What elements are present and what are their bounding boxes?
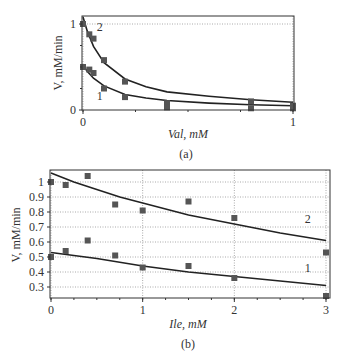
data-point-series-2 <box>101 57 107 63</box>
chart-panel-a: 0101 21 V, mM/min Val, mM (a) <box>51 16 296 161</box>
data-point-series-1 <box>231 275 237 281</box>
fit-curve-series-2 <box>51 173 326 241</box>
y-tick-label: 0.7 <box>29 220 44 234</box>
chart-b-series-labels: 21 <box>305 212 311 276</box>
chart-a-x-axis-label: Val, mM <box>168 127 209 141</box>
x-tick-label: 0 <box>48 303 54 317</box>
data-point-series-1 <box>186 263 192 269</box>
figure: 0101 21 V, mM/min Val, mM (a) 01230.30.4… <box>0 0 341 361</box>
chart-a-frame <box>82 16 294 110</box>
data-point-series-1 <box>122 94 128 100</box>
y-tick-label: 0.8 <box>29 205 44 219</box>
data-point-series-2 <box>186 199 192 205</box>
series-label-1: 1 <box>305 261 311 275</box>
y-tick-label: 1 <box>70 17 76 31</box>
chart-panel-b: 01230.30.40.50.60.70.80.91 21 V, mM/min … <box>9 170 330 351</box>
chart-a-data-points <box>80 21 296 111</box>
chart-a-y-axis-label: V, mM/min <box>51 35 65 90</box>
data-point-series-2 <box>231 215 237 221</box>
data-point-series-2 <box>323 250 329 256</box>
data-point-series-2 <box>63 182 69 188</box>
data-point-series-2 <box>91 36 97 42</box>
data-point-series-2 <box>85 173 91 179</box>
series-label-2: 2 <box>305 212 311 226</box>
chart-svg: 0101 21 V, mM/min Val, mM (a) 01230.30.4… <box>0 0 341 361</box>
y-tick-label: 0.6 <box>29 235 44 249</box>
y-tick-label: 0.5 <box>29 250 44 264</box>
chart-b-panel-label: (b) <box>181 337 195 351</box>
series-label-1: 1 <box>97 89 103 103</box>
chart-a-panel-label: (a) <box>179 147 192 161</box>
x-tick-label: 1 <box>140 303 146 317</box>
chart-b-axis-ticks: 01230.30.40.50.60.70.80.91 <box>29 175 329 317</box>
chart-b-y-axis-label: V, mM/min <box>9 207 23 262</box>
y-tick-label: 0.3 <box>29 280 44 294</box>
data-point-series-2 <box>248 98 254 104</box>
y-tick-label: 0 <box>70 103 76 117</box>
chart-a-fit-curves <box>83 17 293 106</box>
y-tick-label: 1 <box>38 175 44 189</box>
x-tick-label: 0 <box>80 115 86 129</box>
chart-a-grid <box>82 16 294 110</box>
x-tick-label: 3 <box>323 303 329 317</box>
data-point-series-1 <box>112 253 118 259</box>
chart-b-x-axis-label: Ile, mM <box>168 317 207 331</box>
x-tick-label: 1 <box>290 115 296 129</box>
series-label-2: 2 <box>97 20 103 34</box>
data-point-series-1 <box>91 70 97 76</box>
chart-a-axis-ticks: 0101 <box>70 17 296 129</box>
data-point-series-2 <box>122 79 128 85</box>
data-point-series-1 <box>140 265 146 271</box>
data-point-series-2 <box>112 202 118 208</box>
data-point-series-2 <box>140 208 146 214</box>
y-tick-label: 0.4 <box>29 265 44 279</box>
data-point-series-1 <box>63 248 69 254</box>
x-tick-label: 2 <box>231 303 237 317</box>
chart-b-data-points <box>48 173 329 299</box>
data-point-series-1 <box>85 238 91 244</box>
y-tick-label: 0.9 <box>29 190 44 204</box>
